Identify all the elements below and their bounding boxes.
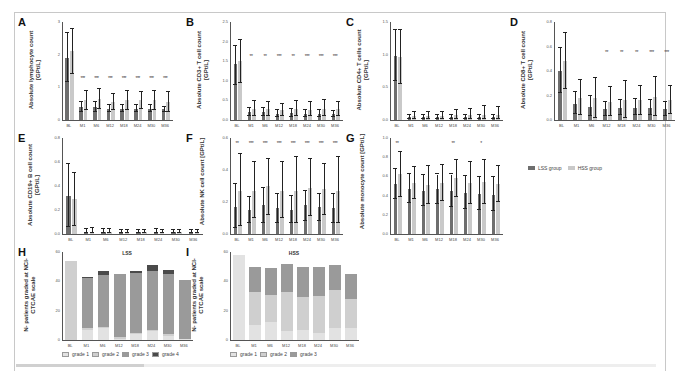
error-cap (322, 214, 326, 215)
error-bar (319, 194, 320, 221)
error-bar (479, 177, 480, 210)
plot-area (62, 138, 203, 235)
y-tick-label: 0.2 (46, 207, 60, 212)
stack-segment (249, 292, 261, 326)
error-cap (593, 77, 597, 78)
panel-letter: C (346, 16, 354, 28)
plot-area (390, 138, 503, 235)
y-tick-label: 0.0 (374, 231, 388, 236)
error-bar (409, 174, 410, 203)
error-bar (113, 94, 114, 110)
error-cap (308, 101, 312, 102)
error-bar (338, 102, 339, 116)
error-cap (393, 168, 397, 169)
error-cap (398, 196, 402, 197)
error-cap (142, 232, 146, 233)
stack-segment (65, 261, 77, 340)
error-cap (491, 210, 495, 211)
error-cap (331, 193, 335, 194)
error-cap (653, 115, 657, 116)
error-bar (665, 102, 666, 117)
error-cap (426, 111, 430, 112)
error-cap (289, 116, 293, 117)
x-tick-label: M6 (584, 123, 600, 128)
error-cap (558, 47, 562, 48)
error-cap (280, 217, 284, 218)
error-cap (638, 85, 642, 86)
x-tick-label: M6 (95, 343, 111, 348)
y-tick-label: 1.5 (214, 58, 228, 63)
error-bar (442, 165, 443, 201)
significance-marker: ** (614, 49, 630, 55)
error-cap (261, 115, 265, 116)
grade-swatch (62, 352, 69, 357)
error-bar (282, 162, 283, 218)
error-cap (162, 111, 166, 112)
y-tick-label: 60 (46, 249, 60, 254)
error-cap (84, 109, 88, 110)
error-bar (141, 92, 142, 108)
y-tick-label: 0.5 (214, 97, 228, 102)
panel-letter: E (18, 132, 25, 144)
error-cap (331, 222, 335, 223)
grade-legend-label: grade 1 (72, 351, 89, 357)
stack-segment (329, 265, 341, 290)
error-cap (233, 227, 237, 228)
error-cap (120, 104, 124, 105)
error-cap (317, 116, 321, 117)
stack-segment (233, 255, 245, 340)
significance-marker: *** (659, 49, 675, 55)
stack-segment (98, 275, 110, 326)
error-cap (496, 118, 500, 119)
error-cap (70, 28, 74, 29)
error-cap (247, 196, 251, 197)
error-cap (154, 232, 158, 233)
y-axis-label: Absolute CD4+ T cells count [GPt/L] (356, 21, 370, 119)
error-cap (294, 100, 298, 101)
error-cap (317, 220, 321, 221)
stack-segment (98, 328, 110, 340)
error-bar (423, 175, 424, 206)
stack-segment (114, 339, 126, 340)
error-cap (336, 222, 340, 223)
error-cap (294, 156, 298, 157)
error-cap (618, 114, 622, 115)
stack-segment (114, 337, 126, 338)
stack-segment (82, 328, 94, 329)
error-bar (395, 30, 396, 81)
stack-segment (329, 328, 341, 340)
error-cap (101, 232, 105, 233)
error-cap (72, 172, 76, 173)
x-tick-label: M12 (599, 123, 615, 128)
x-tick-label: M36 (487, 123, 503, 128)
plot-area (554, 22, 675, 121)
error-cap (468, 203, 472, 204)
y-tick-label: 0 (46, 337, 60, 342)
y-tick-label: 0.0 (214, 231, 228, 236)
hss-swatch (568, 166, 575, 170)
error-cap (233, 84, 237, 85)
error-bar (451, 175, 452, 208)
error-cap (593, 117, 597, 118)
significance-marker: *** (327, 140, 343, 146)
error-cap (303, 116, 307, 117)
grade-legend-label: grade 3 (300, 351, 317, 357)
error-bar (99, 89, 100, 109)
panel-i: IN- patients graded at NCI-CTCAE scale02… (186, 246, 364, 358)
error-bar (235, 184, 236, 227)
error-cap (393, 80, 397, 81)
stack-segment (130, 271, 142, 272)
error-cap (393, 198, 397, 199)
y-tick-label: 0.5 (374, 84, 388, 89)
error-cap (261, 107, 265, 108)
error-bar (620, 100, 621, 115)
error-bar (268, 159, 269, 215)
error-cap (454, 159, 458, 160)
error-cap (496, 106, 500, 107)
panel-letter: A (18, 16, 26, 28)
error-cap (289, 222, 293, 223)
y-tick-label: 0.6 (538, 44, 552, 49)
error-cap (463, 118, 467, 119)
grade-legend: grade 1grade 2grade 3grade 4 (62, 351, 179, 357)
y-tick-label: 0.4 (538, 68, 552, 73)
